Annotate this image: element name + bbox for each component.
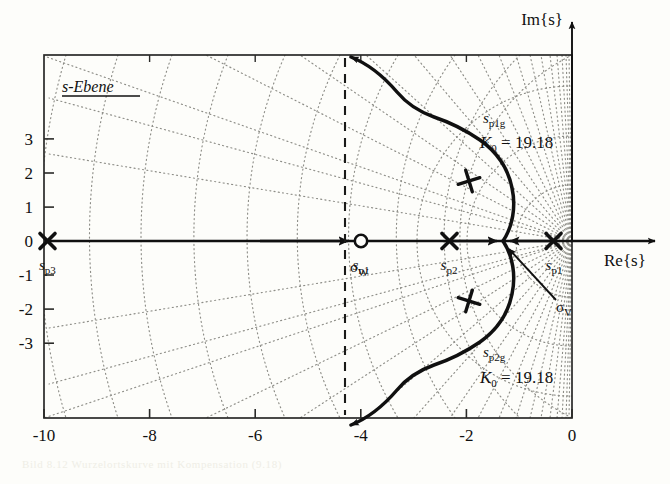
imaginary-axis-label: Im{s} <box>521 10 563 29</box>
x-tick-label: -6 <box>248 426 262 445</box>
label-gain-upper: K0 = 19.18 <box>479 133 553 154</box>
x-tick-label: -8 <box>143 426 157 445</box>
zero-marker-sn1 <box>355 235 367 247</box>
x-tick-label: -2 <box>459 426 473 445</box>
x-tick-label: -10 <box>33 426 56 445</box>
x-tick-label: 0 <box>568 426 577 445</box>
x-tick-label: -4 <box>354 426 369 445</box>
real-axis-label: Re{s} <box>604 251 646 270</box>
root-locus-plot: -10 -8 -6 -4 -2 0 -3 -2 -1 0 1 2 3 Im{s}… <box>0 0 670 484</box>
y-tick-label: 3 <box>25 130 34 149</box>
y-tick-label: -1 <box>19 266 33 285</box>
y-tick-label: -2 <box>19 300 33 319</box>
y-tick-label: -3 <box>19 334 33 353</box>
y-tick-label: 1 <box>25 198 34 217</box>
y-tick-label: 0 <box>25 232 34 251</box>
label-gain-lower: K0 = 19.18 <box>479 368 553 389</box>
root-locus-figure: -10 -8 -6 -4 -2 0 -3 -2 -1 0 1 2 3 Im{s}… <box>0 0 670 484</box>
plane-label: s-Ebene <box>62 78 114 95</box>
y-tick-label: 2 <box>25 164 34 183</box>
page-bleed-text: Bild 8.12 Wurzelortskurve mit Kompensati… <box>22 458 452 470</box>
